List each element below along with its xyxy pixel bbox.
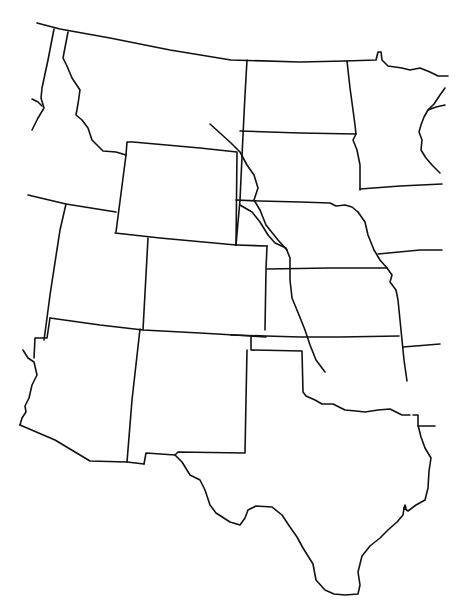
colorado-border bbox=[143, 238, 148, 330]
nebraska-east-border bbox=[358, 212, 387, 268]
galveston-bay bbox=[404, 505, 406, 508]
arizona-west-border bbox=[34, 318, 50, 358]
wyoming-west-border bbox=[116, 155, 126, 232]
colorado-river bbox=[20, 350, 37, 425]
colorado-north-nebraska-panhandle bbox=[236, 245, 267, 246]
iowa-missouri-border bbox=[378, 250, 442, 254]
idaho-west-border bbox=[32, 29, 54, 130]
arizona-south-border bbox=[20, 425, 144, 464]
minnesota-iowa-border bbox=[360, 184, 442, 189]
wyoming-border bbox=[126, 142, 237, 245]
idaho-montana-border bbox=[63, 32, 126, 155]
canada-border bbox=[37, 23, 448, 76]
oregon-idaho-stub bbox=[32, 99, 42, 106]
nebraska-kansas-border bbox=[267, 268, 407, 381]
newmexico-south-border bbox=[144, 350, 247, 464]
nd-sd-border bbox=[240, 131, 356, 134]
wyoming-south-border bbox=[115, 233, 236, 245]
texas-border bbox=[175, 415, 431, 595]
oklahoma-panhandle bbox=[251, 336, 410, 415]
utah-arizona-border bbox=[50, 318, 266, 337]
platte-river bbox=[240, 205, 325, 372]
outline-map bbox=[0, 0, 463, 614]
missouri-east-stub bbox=[403, 344, 440, 347]
minnesota-west-border bbox=[347, 61, 360, 190]
colorado-east-border bbox=[265, 246, 267, 330]
minnesota-east-border bbox=[419, 88, 445, 173]
missouri-river bbox=[210, 124, 287, 250]
arizona-newmexico-border bbox=[127, 329, 140, 462]
idaho-utah-south bbox=[28, 195, 116, 212]
